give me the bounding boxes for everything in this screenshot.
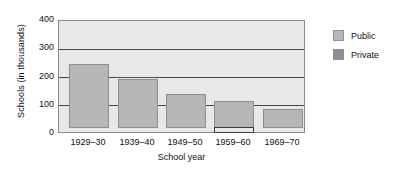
- bars-layer: [59, 21, 304, 132]
- y-tick-label: 100: [24, 99, 54, 109]
- legend-swatch-icon-private: [333, 49, 344, 60]
- legend-label-private: Private: [351, 50, 379, 60]
- x-axis-tick-labels: 1929–30 1939–40 1949–50 1959–60 1969–70: [58, 136, 305, 150]
- y-tick-label: 200: [24, 71, 54, 81]
- bar-chart: Schools (in thousands) 400 300 200 100 0…: [0, 0, 401, 175]
- y-tick-label: 300: [24, 42, 54, 52]
- y-tick-label: 400: [24, 14, 54, 24]
- legend-swatch-icon-public: [333, 30, 344, 41]
- bar-public-1959-60: [214, 101, 254, 128]
- bar-private-1959-60: [214, 127, 254, 133]
- plot-area: [58, 20, 305, 133]
- bar-public-1929-30: [69, 64, 109, 128]
- y-axis-tick-labels: 400 300 200 100 0: [24, 14, 54, 138]
- y-tick-label: 0: [24, 127, 54, 137]
- bar-public-1949-50: [166, 94, 206, 128]
- legend-item-private: Private: [333, 45, 401, 64]
- bar-public-1939-40: [118, 79, 158, 128]
- chart-legend: Public Private: [333, 26, 401, 64]
- x-tick-label-1969-70: 1969–70: [250, 136, 314, 148]
- legend-item-public: Public: [333, 26, 401, 45]
- x-axis-title: School year: [58, 152, 305, 162]
- legend-label-public: Public: [351, 31, 376, 41]
- bar-public-1969-70: [263, 109, 303, 128]
